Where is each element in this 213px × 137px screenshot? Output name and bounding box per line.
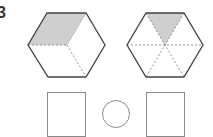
hexagon-right [127,13,203,77]
comparison-circle[interactable] [103,101,130,128]
answer-box-right[interactable] [147,93,185,137]
hexagon-left [28,13,105,77]
shaded-rhombus [28,13,86,45]
fraction-diagram [0,0,213,137]
dashed-divider [67,45,86,77]
shaded-triangle [146,13,184,45]
answer-box-left[interactable] [48,93,86,137]
